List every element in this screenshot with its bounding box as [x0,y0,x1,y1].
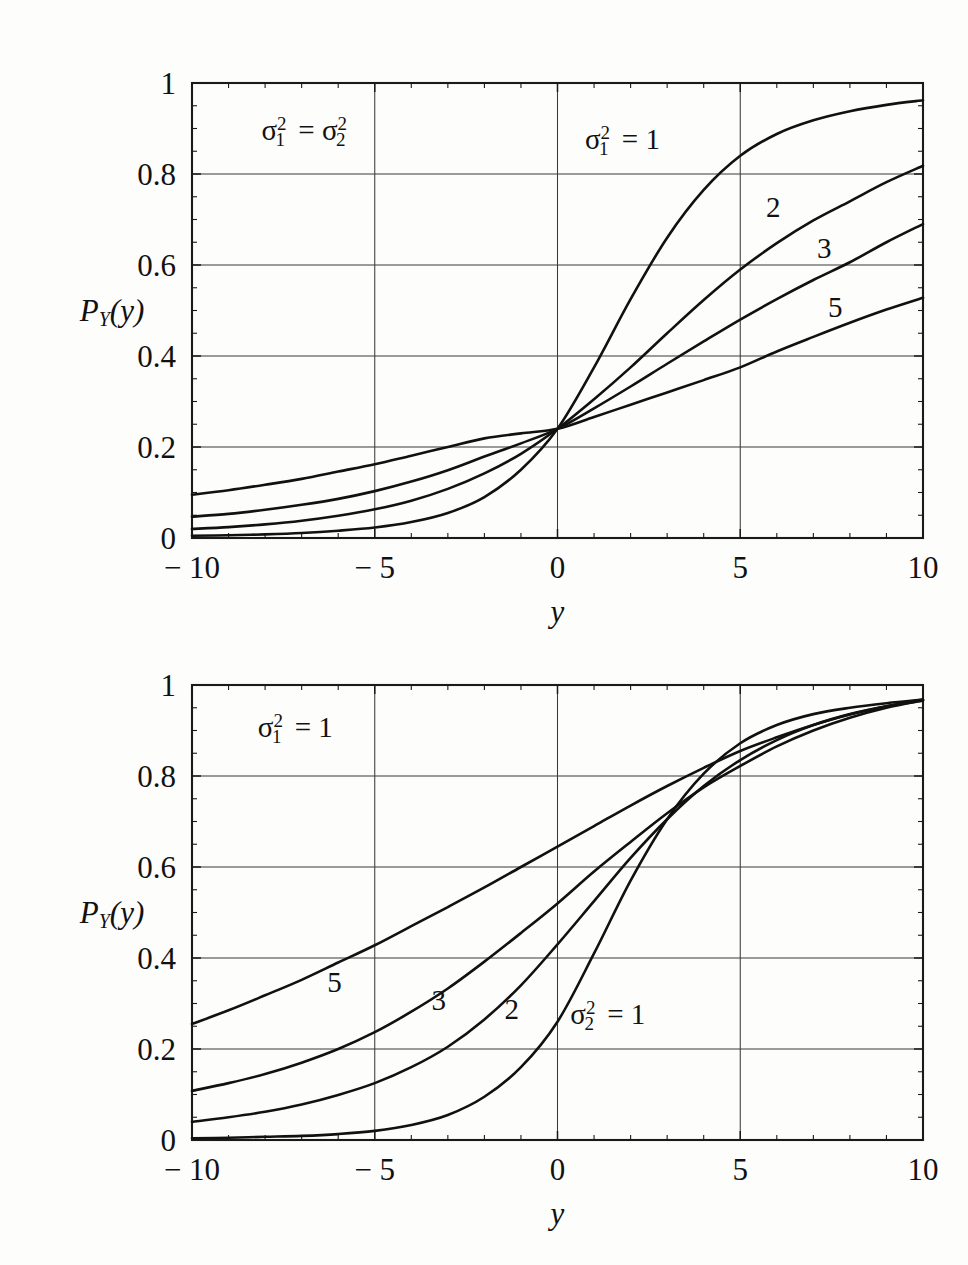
y-tick-label: 0.8 [137,759,176,794]
y-axis-label: PY(y) [79,895,144,932]
y-tick-label: 0.6 [137,850,176,885]
top-chart-panel: − 10− 5051000.20.40.60.81yPY(y)σ21 = σ22… [0,0,968,632]
y-tick-label: 0.2 [137,430,176,465]
grid-lines [192,83,923,538]
sigma1-equals-one-note: σ21 = 1 [585,121,660,159]
curve-label: 5 [828,291,843,323]
x-tick-label: − 5 [354,1152,395,1187]
sigma2-equals-one-note: σ22 = 1 [570,996,645,1034]
top-chart-svg: − 10− 5051000.20.40.60.81yPY(y)σ21 = σ22… [0,0,968,632]
curve-label: 2 [766,191,781,223]
x-tick-label: 10 [908,550,939,585]
y-tick-label: 0.8 [137,157,176,192]
sigma1-equals-one-note: σ21 = 1 [258,710,333,748]
curve-label: 3 [431,984,446,1016]
y-tick-label: 0.4 [137,941,176,976]
y-tick-label: 0.2 [137,1032,176,1067]
bottom-chart-svg: − 10− 5051000.20.40.60.81yPY(y)σ21 = 1 σ… [0,632,968,1265]
variance-equality-note: σ21 = σ22 [261,112,347,150]
x-tick-label: − 5 [354,550,395,585]
y-tick-label: 1 [161,66,177,101]
y-tick-label: 0.6 [137,248,176,283]
x-axis-label: y [548,594,565,629]
grid-lines [192,685,923,1140]
x-tick-label: 0 [550,1152,566,1187]
x-axis-label: y [548,1196,565,1231]
x-tick-label: 5 [733,550,749,585]
y-tick-label: 0 [161,521,177,556]
curve-label: 2 [505,993,520,1025]
x-tick-label: 0 [550,550,566,585]
y-tick-label: 0 [161,1123,177,1158]
x-tick-label: 10 [908,1152,939,1187]
y-axis-label: PY(y) [79,293,144,330]
y-tick-label: 1 [161,668,177,703]
x-tick-label: 5 [733,1152,749,1187]
text-layer: − 10− 5051000.20.40.60.81yPY(y)σ21 = σ22… [79,66,939,629]
text-layer: − 10− 5051000.20.40.60.81yPY(y)σ21 = 1 σ… [79,668,939,1231]
y-tick-label: 0.4 [137,339,176,374]
curve-label: 5 [327,966,342,998]
curve-label: 3 [817,232,832,264]
bottom-chart-panel: − 10− 5051000.20.40.60.81yPY(y)σ21 = 1 σ… [0,632,968,1265]
